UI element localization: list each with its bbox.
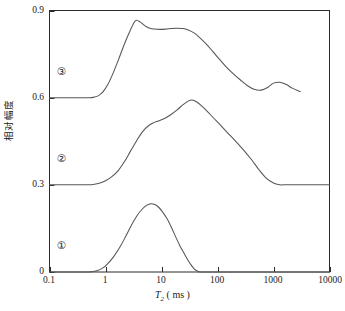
x-tick-label-5: 10000 [310, 276, 345, 286]
curve-1 [50, 204, 330, 272]
plot-area [0, 0, 345, 311]
curve-marker-2: ② [57, 153, 66, 164]
x-axis-title: T2 ( ms ) [0, 289, 345, 303]
x-axis-title-subscript: 2 [161, 295, 165, 303]
curve-marker-1: ① [57, 240, 66, 251]
x-tick-label-4: 1000 [253, 276, 293, 286]
x-axis-title-unit: ( ms ) [167, 289, 190, 300]
curve-2 [50, 100, 330, 185]
plot-frame [50, 11, 330, 273]
x-tick-label-1: 1 [85, 276, 125, 286]
y-axis-ticks [50, 12, 55, 273]
y-tick-label-3: 0.9 [22, 6, 44, 16]
x-tick-label-3: 100 [197, 276, 237, 286]
y-tick-label-1: 0.3 [22, 180, 44, 190]
data-curves [50, 20, 330, 272]
curve-marker-3: ③ [57, 66, 66, 77]
x-tick-label-2: 10 [141, 276, 181, 286]
curve-3 [50, 20, 301, 97]
y-axis-title: 相对幅度 [1, 88, 15, 152]
y-tick-label-2: 0.6 [22, 93, 44, 103]
relative-amplitude-t2-chart: 0 0.3 0.6 0.9 0.1 1 10 100 1000 10000 ① … [0, 0, 345, 311]
x-tick-label-0: 0.1 [29, 276, 69, 286]
